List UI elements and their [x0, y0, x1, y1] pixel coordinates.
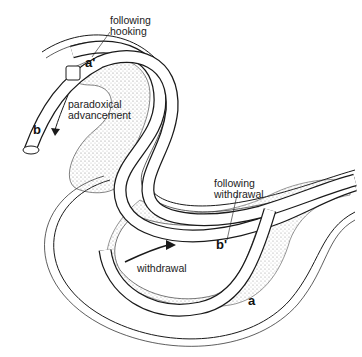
- scope-tip-a-prime: [66, 66, 80, 80]
- letter-a: a: [248, 293, 255, 308]
- label-following-withdrawal: following withdrawal: [214, 178, 264, 200]
- colon-illustration: [0, 0, 362, 357]
- label-paradoxical-advancement: paradoxical advancement: [68, 99, 131, 121]
- scope-tip-b: [23, 146, 39, 154]
- label-following-hooking: following hooking: [110, 15, 151, 37]
- letter-a-prime: a': [85, 55, 95, 70]
- letter-b: b: [33, 122, 41, 137]
- letter-b-prime: b': [216, 237, 227, 252]
- label-withdrawal: withdrawal: [137, 263, 187, 274]
- colonoscopy-diagram: following hooking paradoxical advancemen…: [0, 0, 362, 357]
